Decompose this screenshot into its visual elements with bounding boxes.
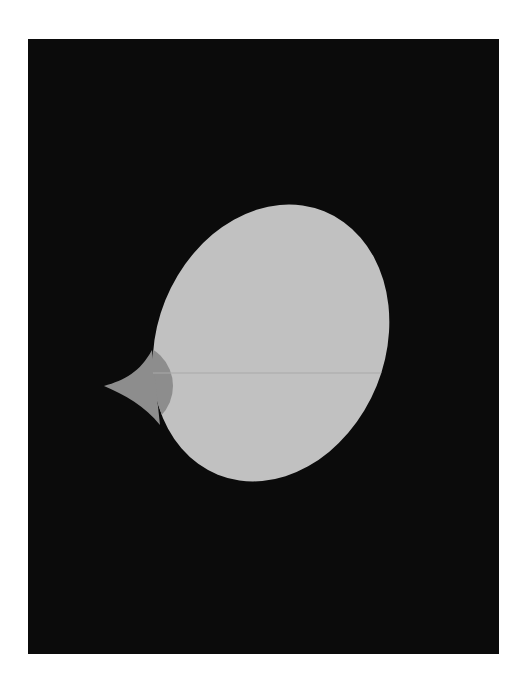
artwork (0, 0, 525, 693)
